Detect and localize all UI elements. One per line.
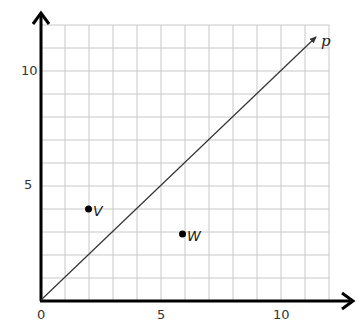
point-v-label: V	[93, 203, 104, 219]
point-v	[85, 206, 92, 213]
y-tick-5: 5	[24, 177, 32, 192]
y-tick-10: 10	[21, 63, 38, 78]
point-w	[179, 231, 186, 238]
x-tick-5: 5	[157, 307, 165, 322]
point-w-label: W	[187, 228, 202, 244]
coordinate-plane: p V W 0 5 10 5 10	[0, 0, 364, 334]
x-tick-0: 0	[37, 307, 45, 322]
x-tick-10: 10	[273, 307, 290, 322]
line-p	[41, 37, 316, 300]
line-p-label: p	[321, 32, 331, 50]
